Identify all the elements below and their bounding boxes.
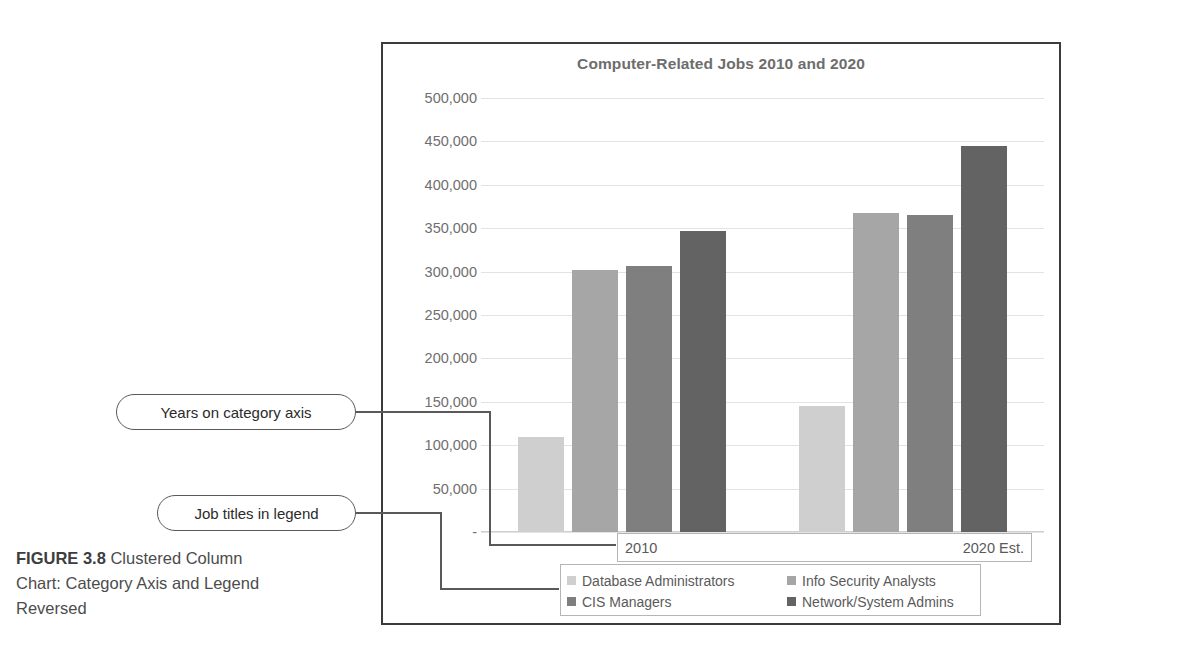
y-tick-label: 400,000	[425, 177, 477, 193]
legend-swatch-icon	[787, 597, 796, 606]
bar-2010-info-security-analysts[interactable]	[572, 270, 618, 532]
y-tick-label: 50,000	[433, 481, 477, 497]
gridline	[481, 402, 1044, 403]
chart-frame[interactable]: Computer-Related Jobs 2010 and 2020 500,…	[381, 42, 1061, 625]
plot-area	[481, 98, 1044, 532]
gridline	[481, 141, 1044, 142]
callout-leader-years-horizontal	[356, 411, 490, 413]
bar-2020-est--network-system-admins[interactable]	[961, 146, 1007, 532]
figure-caption: FIGURE 3.8 Clustered Column Chart: Categ…	[16, 546, 271, 621]
callout-leader-years-connector	[489, 544, 616, 546]
bar-2010-cis-managers[interactable]	[626, 266, 672, 532]
legend-swatch-icon	[567, 597, 576, 606]
y-tick-label: 250,000	[425, 307, 477, 323]
callout-years-label: Years on category axis	[160, 404, 311, 421]
category-axis-label-2020: 2020 Est.	[963, 540, 1024, 556]
y-tick-label: 150,000	[425, 394, 477, 410]
bar-2020-est--info-security-analysts[interactable]	[853, 213, 899, 532]
category-axis-label-2010: 2010	[625, 540, 657, 556]
gridline	[481, 358, 1044, 359]
category-axis[interactable]: 2010 2020 Est.	[617, 533, 1032, 562]
gridline	[481, 98, 1044, 99]
bar-2010-database-administrators[interactable]	[518, 437, 564, 532]
callout-job-titles-in-legend: Job titles in legend	[157, 495, 356, 531]
callout-legend-label: Job titles in legend	[194, 505, 318, 522]
bar-2010-network-system-admins[interactable]	[680, 231, 726, 532]
y-tick-label: 100,000	[425, 437, 477, 453]
gridline	[481, 185, 1044, 186]
gridline	[481, 489, 1044, 490]
chart-title: Computer-Related Jobs 2010 and 2020	[383, 55, 1059, 73]
y-tick-label: 200,000	[425, 350, 477, 366]
y-axis-tick-labels: 500,000450,000400,000350,000300,000250,0…	[393, 98, 477, 532]
callout-leader-legend-horizontal	[356, 512, 441, 514]
gridline	[481, 445, 1044, 446]
legend-label: Network/System Admins	[802, 594, 954, 610]
bar-2020-est--cis-managers[interactable]	[907, 215, 953, 532]
legend-swatch-icon	[567, 576, 576, 585]
gridline	[481, 272, 1044, 273]
y-tick-label: -	[472, 524, 477, 540]
gridline	[481, 315, 1044, 316]
y-tick-label: 450,000	[425, 133, 477, 149]
gridline	[481, 228, 1044, 229]
legend-item-database-administrators[interactable]: Database Administrators	[567, 573, 787, 589]
y-tick-label: 350,000	[425, 220, 477, 236]
y-tick-label: 300,000	[425, 264, 477, 280]
callout-years-on-category-axis: Years on category axis	[116, 394, 356, 430]
figure-number: FIGURE 3.8	[16, 549, 106, 567]
legend-label: Database Administrators	[582, 573, 735, 589]
legend-label: Info Security Analysts	[802, 573, 936, 589]
legend-label: CIS Managers	[582, 594, 671, 610]
legend-item-info-security-analysts[interactable]: Info Security Analysts	[787, 573, 987, 589]
bar-2020-est--database-administrators[interactable]	[799, 406, 845, 532]
callout-leader-legend-vertical	[440, 512, 442, 589]
legend-item-network-system-admins[interactable]: Network/System Admins	[787, 594, 987, 610]
y-tick-label: 500,000	[425, 90, 477, 106]
callout-leader-legend-connector	[440, 588, 559, 590]
legend-swatch-icon	[787, 576, 796, 585]
chart-legend[interactable]: Database AdministratorsInfo Security Ana…	[560, 564, 981, 616]
callout-leader-years-vertical	[489, 411, 491, 545]
legend-item-cis-managers[interactable]: CIS Managers	[567, 594, 787, 610]
